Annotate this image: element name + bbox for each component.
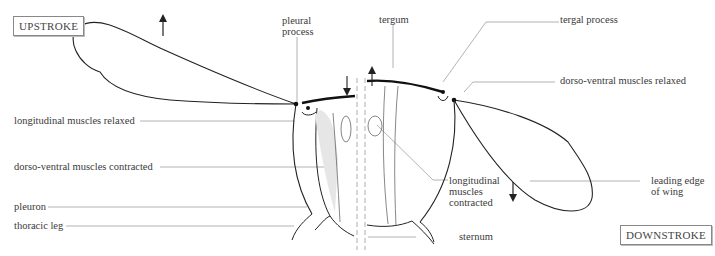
label-long-contracted-1: longitudinal <box>449 175 500 186</box>
leader-lines <box>48 22 640 237</box>
label-long-relaxed: longitudinal muscles relaxed <box>14 115 135 126</box>
label-long-contracted-3: contracted <box>449 197 493 208</box>
label-pleural-process-1: pleural <box>282 15 311 26</box>
thorax-left <box>293 104 312 214</box>
label-leading-edge-1: leading edge <box>651 175 704 186</box>
label-dv-relaxed: dorso-ventral muscles relaxed <box>560 75 686 86</box>
diagram-canvas <box>0 0 715 256</box>
label-long-contracted-2: muscles <box>449 186 483 197</box>
label-leading-edge-2: of wing <box>651 186 683 197</box>
left-wing <box>73 22 296 104</box>
downstroke-label: DOWNSTROKE <box>620 225 712 245</box>
label-dv-contracted: dorso-ventral muscles contracted <box>14 161 153 172</box>
label-pleural-process-2: process <box>282 26 314 37</box>
label-tergum: tergum <box>379 14 409 25</box>
label-sternum: sternum <box>459 231 493 242</box>
label-thoracic-leg: thoracic leg <box>14 220 63 231</box>
upstroke-label: UPSTROKE <box>13 16 84 36</box>
label-tergal-process: tergal process <box>560 14 618 25</box>
label-pleuron: pleuron <box>14 201 46 212</box>
